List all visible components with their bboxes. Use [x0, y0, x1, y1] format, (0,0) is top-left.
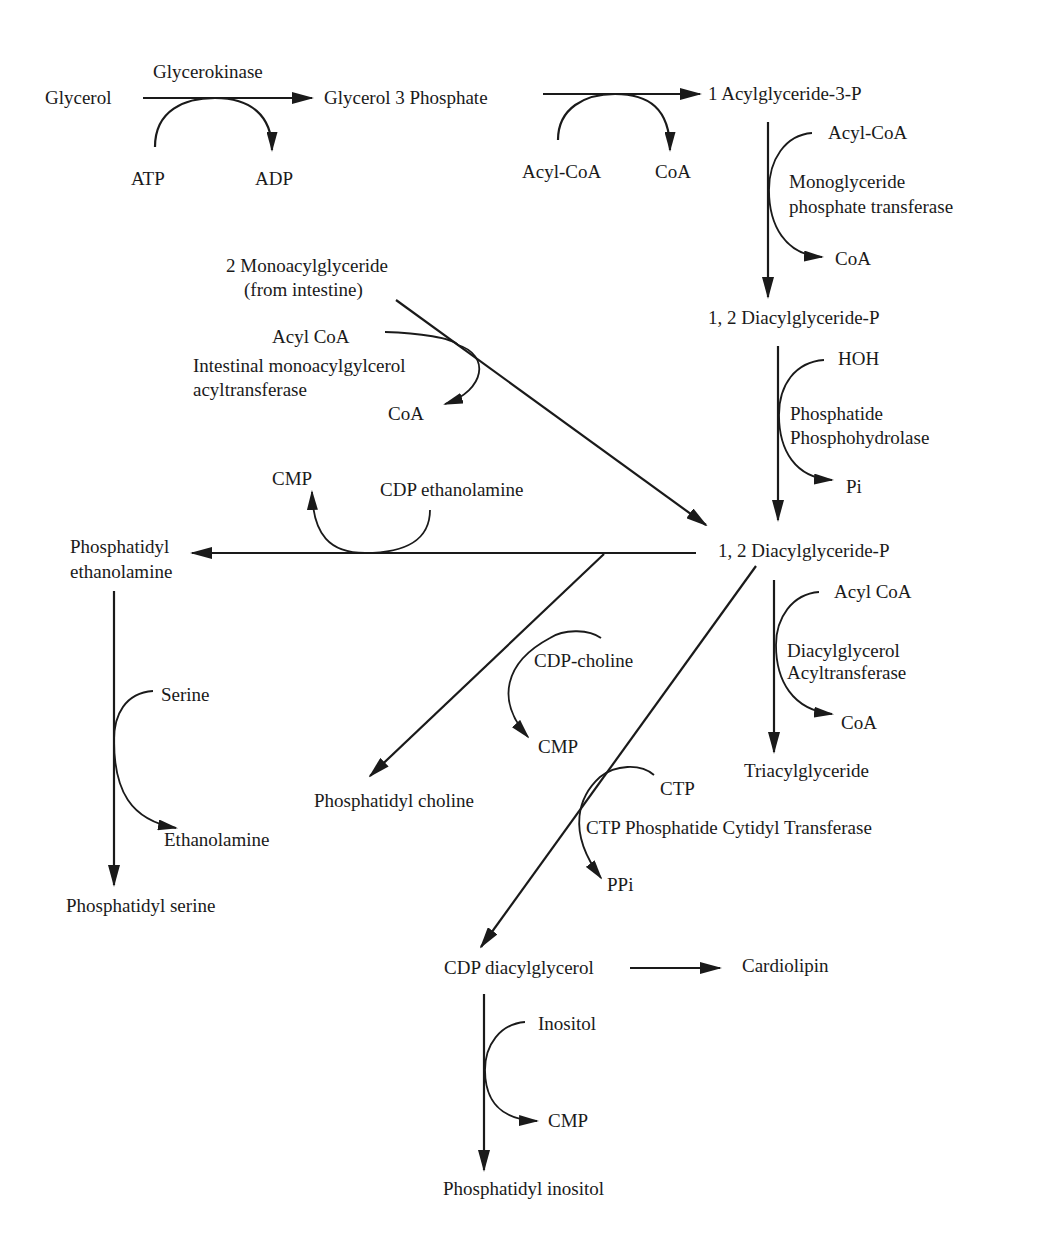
- enzyme-dgat-line1: Diacylglycerol: [787, 640, 900, 661]
- cofactor-cmp-2: CMP: [538, 736, 578, 757]
- cofactor-adp: ADP: [255, 168, 293, 189]
- enzyme-pph-line2: Phosphohydrolase: [790, 427, 929, 448]
- cofactor-ctp: CTP: [660, 778, 695, 799]
- node-monoacylglyceride-line2: (from intestine): [244, 279, 363, 301]
- node-phosphatidyl-serine: Phosphatidyl serine: [66, 895, 215, 916]
- cofactor-atp: ATP: [131, 168, 165, 189]
- cofactor-cmp-1: CMP: [272, 468, 312, 489]
- arc-inositol-cmp: [485, 1022, 537, 1121]
- cofactor-cmp-3: CMP: [548, 1110, 588, 1131]
- enzyme-mgpt-line2: phosphate transferase: [789, 196, 953, 217]
- arc-cdp-ethanolamine-cmp: [312, 492, 430, 553]
- node-glycerol-3-phosphate: Glycerol 3 Phosphate: [324, 87, 488, 108]
- arc-atp-adp: [155, 98, 272, 150]
- enzyme-imat-line2: acyltransferase: [193, 379, 307, 400]
- cofactor-hoh: HOH: [838, 348, 879, 369]
- cofactor-ethanolamine: Ethanolamine: [164, 829, 270, 850]
- cofactor-ppi: PPi: [607, 874, 633, 895]
- enzyme-mgpt-line1: Monoglyceride: [789, 171, 905, 192]
- arc-cdp-choline-cmp: [509, 631, 601, 737]
- enzyme-glycerokinase: Glycerokinase: [153, 61, 263, 82]
- cofactor-acyl-coa-2: Acyl-CoA: [828, 122, 907, 143]
- node-acylglyceride-3p: 1 Acylglyceride-3-P: [708, 83, 862, 104]
- node-phosphatidyl-inositol: Phosphatidyl inositol: [443, 1178, 604, 1199]
- cofactor-acyl-coa-3: Acyl CoA: [272, 326, 350, 347]
- arc-acylcoa-coa-1: [558, 94, 670, 150]
- node-cdp-diacylglycerol: CDP diacylglycerol: [444, 957, 594, 978]
- cofactor-cdp-ethanolamine: CDP ethanolamine: [380, 479, 523, 500]
- cofactor-cdp-choline: CDP-choline: [534, 650, 633, 671]
- node-phosphatidyl-choline: Phosphatidyl choline: [314, 790, 474, 811]
- cofactor-acyl-coa-4: Acyl CoA: [834, 581, 912, 602]
- cofactor-inositol: Inositol: [538, 1013, 596, 1034]
- node-diacylglyceride-p-2: 1, 2 Diacylglyceride-P: [718, 540, 889, 561]
- node-phosphatidyl-ethanolamine-line1: Phosphatidyl: [70, 536, 169, 557]
- node-monoacylglyceride-line1: 2 Monoacylglyceride: [226, 255, 388, 276]
- cofactor-coa-1: CoA: [655, 161, 691, 182]
- cofactor-coa-4: CoA: [841, 712, 877, 733]
- enzyme-ctp-pct: CTP Phosphatide Cytidyl Transferase: [586, 817, 872, 838]
- node-diacylglyceride-p-1: 1, 2 Diacylglyceride-P: [708, 307, 879, 328]
- node-cardiolipin: Cardiolipin: [742, 955, 829, 976]
- node-glycerol: Glycerol: [45, 87, 111, 108]
- cofactor-acyl-coa-1: Acyl-CoA: [522, 161, 601, 182]
- cofactor-coa-3: CoA: [388, 403, 424, 424]
- enzyme-dgat-line2: Acyltransferase: [787, 662, 906, 683]
- enzyme-pph-line1: Phosphatide: [790, 403, 883, 424]
- pathway-diagram: Glycerol Glycerokinase ATP ADP Glycerol …: [0, 0, 1043, 1245]
- cofactor-coa-2: CoA: [835, 248, 871, 269]
- cofactor-serine: Serine: [161, 684, 210, 705]
- node-triacylglyceride: Triacylglyceride: [744, 760, 869, 781]
- arc-serine-ethanolamine: [114, 691, 176, 828]
- cofactor-pi: Pi: [846, 476, 862, 497]
- enzyme-imat-line1: Intestinal monoacylgylcerol: [193, 355, 406, 376]
- node-phosphatidyl-ethanolamine-line2: ethanolamine: [70, 561, 172, 582]
- arc-acylcoa-coa-2: [769, 133, 822, 257]
